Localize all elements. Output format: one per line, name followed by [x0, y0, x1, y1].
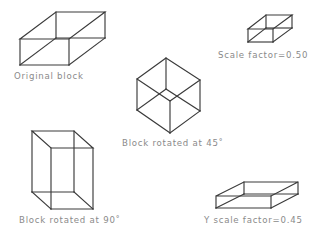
scaled-block-wireframe: [248, 15, 292, 42]
caption-rotated-45: Block rotated at 45˚: [122, 139, 224, 148]
caption-y-scale-factor: Y scale factor=0.45: [204, 216, 303, 225]
rotated-90-block-wireframe: [32, 131, 93, 209]
original-block-wireframe: [20, 12, 105, 65]
rotated-45-block-wireframe: [137, 58, 200, 133]
caption-rotated-90: Block rotated at 90˚: [19, 216, 121, 225]
y-scaled-block-wireframe: [216, 182, 298, 208]
caption-original-block: Original block: [14, 72, 84, 81]
figure-canvas: [0, 0, 329, 245]
caption-scale-factor: Scale factor=0.50: [218, 51, 308, 60]
